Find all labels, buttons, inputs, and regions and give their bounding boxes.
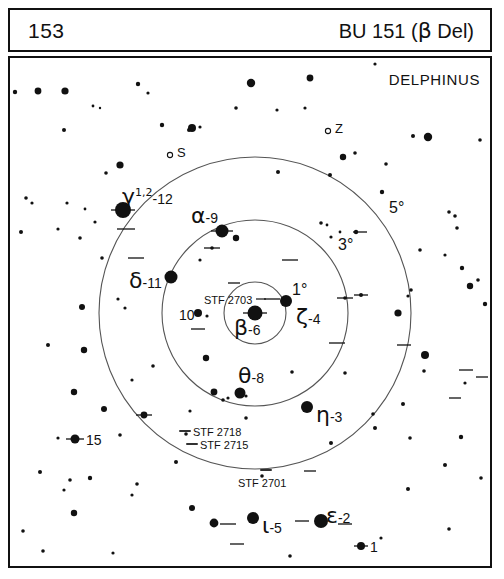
ring-label-five-degree: 5° (389, 200, 404, 216)
field-star (38, 470, 42, 474)
field-star (79, 304, 85, 310)
field-star (478, 138, 482, 142)
field-star (81, 347, 87, 353)
title-greek-letter: β (418, 18, 432, 43)
field-star (353, 151, 357, 155)
field-star (61, 87, 68, 94)
field-star (198, 258, 201, 261)
field-star (62, 128, 66, 132)
star-label-iota: ι-5 (262, 515, 282, 537)
field-star (340, 154, 346, 160)
field-star (46, 343, 50, 347)
stf-label-STF-2718: STF 2718 (193, 427, 241, 438)
field-star (329, 441, 333, 445)
field-star (136, 82, 140, 86)
field-star (409, 288, 413, 292)
stf-label-STF-2703: STF 2703 (204, 295, 252, 306)
field-star (78, 236, 82, 240)
variable-star-marker-group (167, 128, 330, 157)
numbered-star (71, 435, 80, 444)
star-label-beta: β-6 (234, 317, 261, 339)
named-star-eta (301, 401, 313, 413)
ring-label-three-degree: 3° (338, 237, 353, 253)
field-star (111, 551, 114, 554)
field-star (233, 235, 239, 241)
field-star (483, 302, 487, 306)
field-star (56, 436, 59, 439)
numbered-star-label-1: 1 (370, 540, 378, 554)
field-star (329, 235, 332, 238)
field-star (62, 488, 65, 491)
field-star (307, 75, 314, 82)
field-star (189, 505, 195, 511)
field-star (467, 283, 473, 289)
field-star (71, 389, 77, 395)
field-star (221, 398, 225, 402)
star-label-alpha: α-9 (191, 205, 218, 227)
field-star (88, 476, 92, 480)
field-star (92, 105, 95, 108)
field-star (443, 253, 446, 256)
field-star (247, 79, 255, 87)
field-star (401, 402, 405, 406)
field-star (343, 371, 347, 375)
field-star (56, 227, 59, 230)
field-star (188, 409, 191, 412)
chart-header-bar: 153 BU 151 (β Del) (8, 8, 492, 52)
page-title: BU 151 (β Del) (339, 18, 474, 43)
named-star-group (115, 202, 328, 528)
field-star (116, 297, 119, 300)
star-label-gamma: γ1,2-12 (122, 186, 173, 208)
field-star (99, 107, 101, 109)
numbered-star (194, 309, 202, 317)
field-star (13, 90, 17, 94)
field-star (373, 426, 377, 430)
named-star-delta (165, 271, 178, 284)
field-star (455, 226, 459, 230)
field-star (93, 220, 96, 223)
field-star (203, 355, 209, 361)
named-star-theta (235, 388, 246, 399)
field-star (421, 351, 429, 359)
field-star (21, 529, 25, 533)
star-label-delta: δ-11 (129, 270, 162, 292)
variable-star-marker-Z (325, 128, 330, 133)
field-star (373, 62, 376, 65)
field-star (71, 510, 77, 516)
field-star (68, 478, 72, 482)
field-star (418, 248, 422, 252)
field-star (288, 554, 292, 558)
star-label-zeta: ζ-4 (296, 306, 320, 328)
field-star (303, 106, 306, 109)
field-star (141, 412, 148, 419)
field-star (234, 106, 238, 110)
field-star (476, 278, 480, 282)
numbered-star (357, 542, 365, 550)
field-star (118, 433, 122, 437)
field-star (104, 171, 108, 175)
field-star (328, 173, 332, 177)
field-star (135, 482, 139, 486)
field-star (411, 134, 415, 138)
field-star (275, 108, 278, 111)
stf-label-STF-2701: STF 2701 (238, 478, 286, 489)
page-number: 153 (28, 19, 65, 43)
field-star (379, 536, 382, 539)
field-star (210, 519, 219, 528)
field-star (160, 123, 164, 127)
field-star (19, 230, 23, 234)
field-star (463, 381, 466, 384)
field-star (408, 436, 412, 440)
field-star (174, 460, 178, 464)
field-star (290, 370, 294, 374)
field-star (187, 128, 191, 132)
constellation-name: DELPHINUS (389, 72, 480, 87)
field-star (184, 432, 188, 436)
field-star (65, 201, 68, 204)
star-label-theta: θ-8 (238, 365, 264, 387)
field-star (198, 125, 201, 128)
variable-star-label-Z: Z (335, 122, 343, 135)
field-star (123, 306, 126, 309)
sky-map-frame: DELPHINUS 1°3°5°β-6γ1,2-12α-9δ-11ζ-4θ-8η… (8, 56, 492, 568)
field-star (453, 214, 457, 218)
